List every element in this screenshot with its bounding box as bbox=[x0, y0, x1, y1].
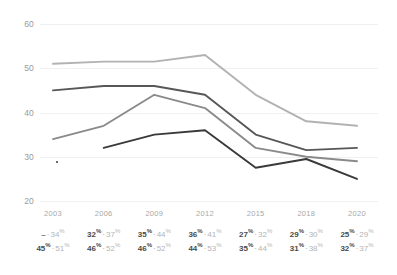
percent-glyph: % bbox=[216, 228, 221, 234]
value-separator: · bbox=[152, 244, 157, 253]
percent-glyph: % bbox=[166, 228, 171, 234]
x-tick-2003: 2003 bbox=[33, 209, 73, 218]
value-separator: · bbox=[304, 244, 309, 253]
table-value-primary: 27% bbox=[239, 230, 253, 239]
table-value-primary: 45% bbox=[36, 244, 50, 253]
percent-glyph: % bbox=[368, 242, 373, 248]
table-value-primary: 32% bbox=[340, 244, 354, 253]
percent-glyph: % bbox=[267, 228, 272, 234]
percent-glyph: % bbox=[115, 242, 120, 248]
x-tick-2009: 2009 bbox=[134, 209, 174, 218]
percent-glyph: % bbox=[267, 242, 272, 248]
table-value-secondary: 37% bbox=[359, 244, 373, 253]
table-value-secondary: 38% bbox=[309, 244, 323, 253]
percent-glyph: % bbox=[318, 228, 323, 234]
table-value-secondary: 52% bbox=[157, 244, 171, 253]
table-cell: 32%·37% bbox=[327, 242, 387, 253]
table-value-primary: 31% bbox=[290, 244, 304, 253]
table-value-primary: 35% bbox=[239, 244, 253, 253]
percent-glyph: % bbox=[64, 242, 69, 248]
line-chart: 2030405060 2003200620092012201520182020 … bbox=[0, 0, 397, 275]
percent-glyph: % bbox=[115, 228, 120, 234]
table-value-secondary: 44% bbox=[157, 230, 171, 239]
percent-glyph: % bbox=[349, 228, 354, 234]
table-value-secondary: 34% bbox=[50, 230, 64, 239]
line-series-light bbox=[53, 55, 357, 126]
table-value-secondary: 51% bbox=[55, 244, 69, 253]
table-value-secondary: 41% bbox=[207, 230, 221, 239]
table-row: 45%·51%46%·52%46%·52%44%·53%35%·44%31%·3… bbox=[0, 242, 397, 256]
percent-glyph: % bbox=[368, 228, 373, 234]
table-value-secondary: 53% bbox=[207, 244, 221, 253]
table-value-primary: 46% bbox=[87, 244, 101, 253]
data-table: –·34%32%·37%35%·44%36%·41%27%·32%29%·30%… bbox=[0, 228, 397, 256]
percent-glyph: % bbox=[216, 242, 221, 248]
series-darkest-start-marker bbox=[56, 161, 58, 163]
table-value-primary: 46% bbox=[138, 244, 152, 253]
value-separator: · bbox=[304, 230, 309, 239]
percent-glyph: % bbox=[59, 228, 64, 234]
table-value-primary: 35% bbox=[138, 230, 152, 239]
percent-glyph: % bbox=[197, 242, 202, 248]
x-tick-2006: 2006 bbox=[84, 209, 124, 218]
line-series-darkest bbox=[104, 130, 357, 179]
percent-glyph: % bbox=[45, 242, 50, 248]
x-tick-2018: 2018 bbox=[286, 209, 326, 218]
line-series-dark bbox=[53, 86, 357, 150]
table-value-secondary: 29% bbox=[359, 230, 373, 239]
line-series-medium bbox=[53, 95, 357, 161]
table-value-secondary: 30% bbox=[309, 230, 323, 239]
x-tick-2015: 2015 bbox=[236, 209, 276, 218]
table-row: –·34%32%·37%35%·44%36%·41%27%·32%29%·30%… bbox=[0, 228, 397, 242]
table-value-secondary: 52% bbox=[106, 244, 120, 253]
table-value-secondary: 32% bbox=[258, 230, 272, 239]
table-value-primary: 32% bbox=[87, 230, 101, 239]
percent-glyph: % bbox=[318, 242, 323, 248]
table-value-primary: 44% bbox=[188, 244, 202, 253]
table-value-secondary: 37% bbox=[106, 230, 120, 239]
table-cell: 25%·29% bbox=[327, 228, 387, 239]
value-separator: · bbox=[152, 230, 157, 239]
table-value-secondary: 44% bbox=[258, 244, 272, 253]
table-value-primary: 36% bbox=[188, 230, 202, 239]
x-tick-2012: 2012 bbox=[185, 209, 225, 218]
x-tick-2020: 2020 bbox=[337, 209, 377, 218]
percent-glyph: % bbox=[349, 242, 354, 248]
series-lines bbox=[0, 0, 397, 230]
percent-glyph: % bbox=[197, 228, 202, 234]
percent-glyph: % bbox=[166, 242, 171, 248]
table-value-primary: 25% bbox=[340, 230, 354, 239]
table-value-primary: 29% bbox=[290, 230, 304, 239]
